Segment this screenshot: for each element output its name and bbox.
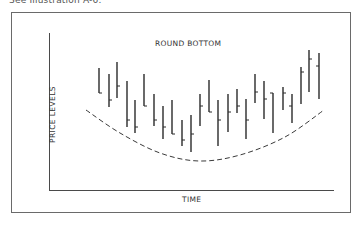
price-bar (228, 94, 231, 132)
y-axis-label: PRICE LEVELS (48, 86, 57, 143)
chart-title: ROUND BOTTOM (155, 39, 221, 48)
price-bar (163, 106, 166, 139)
price-bar (127, 81, 130, 127)
price-bar (154, 94, 157, 126)
price-bar (109, 74, 112, 107)
price-bar (117, 62, 120, 98)
price-bar (200, 94, 203, 126)
price-bar (246, 99, 249, 139)
price-bar (218, 100, 221, 146)
price-bar (237, 89, 240, 113)
price-bar (182, 120, 185, 146)
price-bar (255, 74, 258, 103)
price-bar (301, 67, 304, 104)
dashed-trend-curve (86, 110, 324, 161)
price-bar (264, 81, 267, 119)
price-bar (172, 100, 175, 134)
price-bar (135, 100, 138, 133)
price-bar (209, 80, 212, 112)
price-bar (289, 94, 292, 123)
price-bar (270, 93, 273, 133)
price-bar (309, 50, 312, 92)
price-bar (99, 68, 102, 93)
price-bar (316, 53, 319, 99)
price-bar (144, 74, 147, 106)
price-bar (283, 87, 286, 110)
price-bar (191, 115, 194, 152)
x-axis-label: TIME (182, 195, 201, 204)
axes (49, 33, 334, 191)
